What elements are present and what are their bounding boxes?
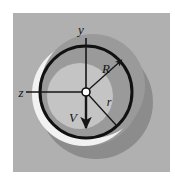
inner-radius-label: r [107,95,112,109]
y-axis-label: y [76,22,84,37]
outer-radius-label: R [101,61,110,76]
sphere-diagram-svg: y z V R r [0,0,175,179]
z-axis-label: z [17,85,23,100]
figure-container: y z V R r [0,0,175,179]
origin-dot [82,88,90,96]
